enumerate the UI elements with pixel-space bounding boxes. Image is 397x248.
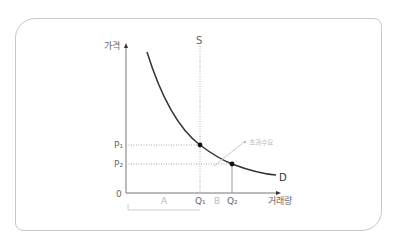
price-label-p2: P₂ [114,159,123,169]
demand-curve [147,52,276,175]
area-label-b: B [214,196,220,206]
y-axis-arrow-icon [124,43,128,48]
equilibrium-point-1 [198,143,203,148]
price-label-p1: P₁ [114,140,123,150]
x-axis-label: 거래량 [268,195,292,206]
x-axis-arrow-icon [276,191,281,195]
excess-demand-label: 초과수요 [249,138,274,147]
origin-label: 0 [116,189,122,199]
area-label-a: A [161,196,168,206]
y-axis-label: 가격 [104,40,120,51]
equilibrium-point-2 [230,162,235,167]
annotation-dot [244,141,246,143]
demand-label: D [279,172,287,183]
supply-label: S [196,35,202,46]
supply-demand-diagram: 가격 거래량 0 S D P₁ P₂ Q₁ Q₂ A B 초과수요 [0,0,397,248]
quantity-label-q2: Q₂ [227,196,238,206]
quantity-label-q1: Q₁ [195,196,206,206]
